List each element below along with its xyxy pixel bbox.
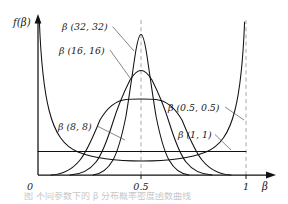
x-axis-label: β bbox=[261, 181, 268, 192]
label-beta-1-1: β (1, 1) bbox=[177, 129, 212, 140]
figure-caption: 图 不同参数下的 β 分布概率密度函数曲线 bbox=[24, 192, 191, 202]
label-beta-8-8: β (8, 8) bbox=[57, 121, 92, 132]
label-beta-16-16: β (16, 16) bbox=[58, 45, 105, 56]
leader-line-beta-16-16 bbox=[110, 50, 132, 80]
y-axis-arrowhead bbox=[35, 14, 42, 24]
label-beta-32-32: β (32, 32) bbox=[61, 21, 108, 32]
x-axis-arrowhead bbox=[266, 171, 276, 178]
leader-line-beta-0.5-0.5 bbox=[225, 107, 244, 120]
tick-label-0.5: 0.5 bbox=[133, 181, 148, 192]
figure-caption-strip: 图 不同参数下的 β 分布概率密度函数曲线 bbox=[0, 192, 288, 204]
y-axis-label: f(β) bbox=[12, 17, 31, 28]
label-beta-0.5-0.5: β (0.5, 0.5) bbox=[167, 102, 220, 113]
beta-distribution-figure: β (32, 32) β (16, 16) β (8, 8) β (0.5, 0… bbox=[0, 0, 288, 204]
tick-label-1: 1 bbox=[243, 181, 249, 192]
leader-line-beta-8-8 bbox=[98, 127, 125, 141]
leader-line-beta-1-1 bbox=[215, 135, 231, 151]
tick-label-0: 0 bbox=[27, 181, 33, 192]
leader-line-beta-32-32 bbox=[113, 27, 135, 52]
curve-beta-0.5-0.5 bbox=[39, 22, 244, 161]
beta-density-chart: β (32, 32) β (16, 16) β (8, 8) β (0.5, 0… bbox=[0, 0, 288, 204]
